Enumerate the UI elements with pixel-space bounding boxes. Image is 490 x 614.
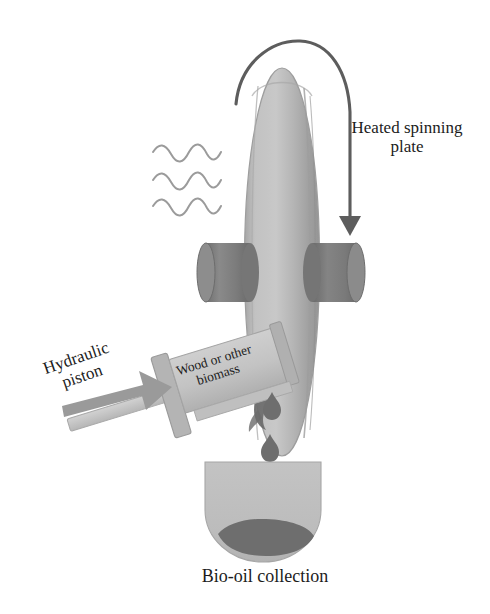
pyrolysis-reactor-diagram: Heated spinning plate Hydraulic piston W… <box>0 0 490 614</box>
label-heated-spinning-plate: Heated spinning plate <box>332 118 482 156</box>
upper-roller-left <box>197 243 259 302</box>
upper-roller-right <box>303 243 365 302</box>
heat-waves <box>153 144 221 215</box>
diagram-canvas <box>0 0 490 614</box>
label-bio-oil-collection: Bio-oil collection <box>115 566 415 586</box>
collection-beaker <box>205 462 321 562</box>
